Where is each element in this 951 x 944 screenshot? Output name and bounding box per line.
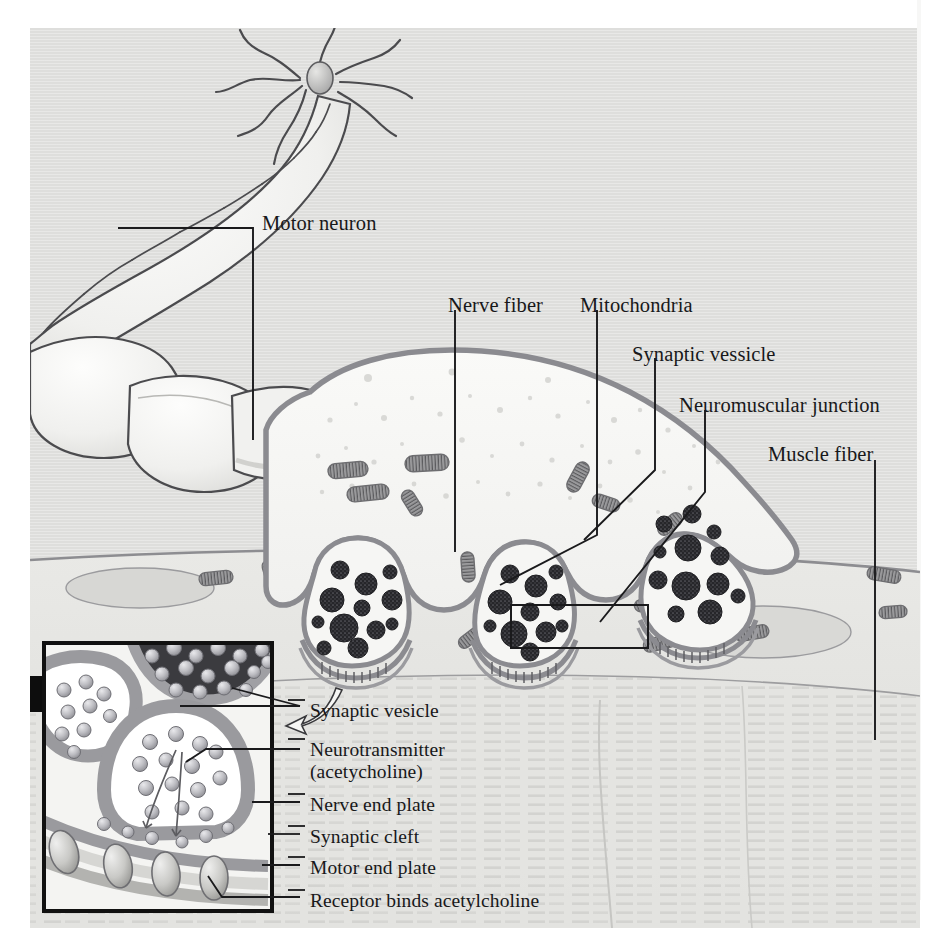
label-neuromuscular-junction: Neuromuscular junction (679, 394, 880, 417)
label-neurotransmitter: Neurotransmitter (310, 739, 445, 761)
label-muscle-fiber: Muscle fiber (768, 443, 873, 466)
label-mitochondria: Mitochondria (580, 294, 693, 317)
label-synaptic-cleft: Synaptic cleft (310, 826, 419, 848)
inset-panel (28, 600, 286, 911)
label-synaptic-vessicle: Synaptic vessicle (632, 343, 775, 366)
label-motor-neuron: Motor neuron (262, 212, 377, 235)
label-motor-end-plate: Motor end plate (310, 857, 436, 879)
synapse-bouton-2 (470, 542, 578, 688)
label-nerve-end-plate: Nerve end plate (310, 794, 435, 816)
label-neurotransmitter-subtitle: (acetycholine) (310, 761, 423, 783)
inset-nerve-terminal-center (104, 706, 248, 834)
neuron-nucleus (307, 62, 333, 94)
label-synaptic-vesicle: Synaptic vesicle (310, 700, 439, 722)
label-receptor-binds-acetylcholine: Receptor binds acetylcholine (310, 890, 539, 912)
figure-canvas: Motor neuron Nerve fiber Mitochondria Sy… (0, 0, 951, 944)
synapse-bouton-1 (300, 538, 412, 688)
illustration-artwork (0, 0, 951, 944)
label-nerve-fiber: Nerve fiber (448, 294, 543, 317)
